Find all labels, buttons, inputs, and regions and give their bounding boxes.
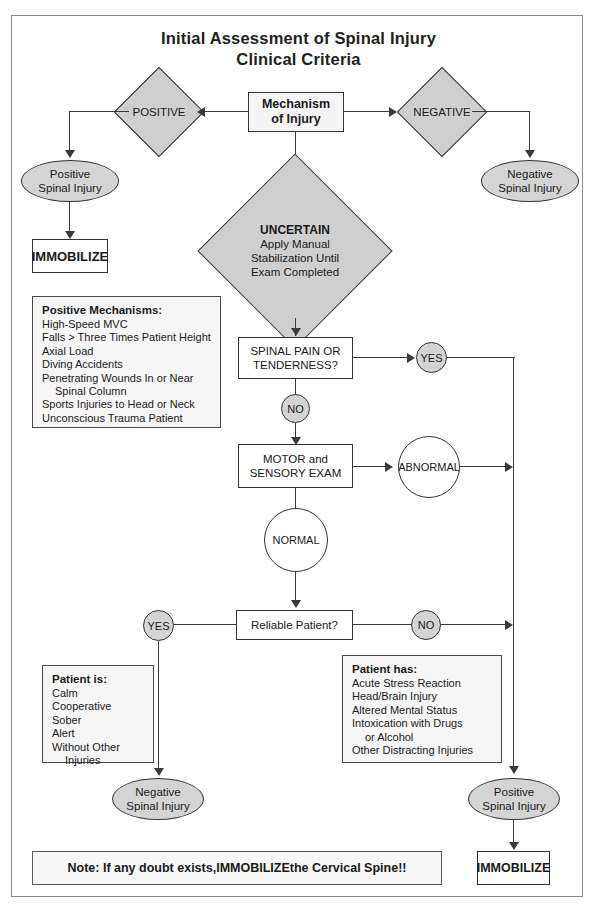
connector-mechanism-to-negative <box>344 111 389 112</box>
node-immobilize-bottom: IMMOBILIZE <box>477 851 550 885</box>
node-reliable-patient-label: Reliable Patient? <box>251 619 338 631</box>
patient-has-item: Altered Mental Status <box>352 704 492 717</box>
node-positive-diamond: POSITIVE <box>127 80 191 144</box>
node-negative-spinal-injury-bottom: Negative Spinal Injury <box>112 778 204 820</box>
node-positive-diamond-label: POSITIVE <box>127 80 191 144</box>
connector-negative-elbow-v <box>529 111 530 153</box>
connector-positive-elbow-v <box>69 111 70 153</box>
node-no-reliable: NO <box>411 610 441 640</box>
connector-negative-elbow-h <box>472 111 530 112</box>
node-negative-spinal-injury-top-label: Negative Spinal Injury <box>498 167 561 195</box>
node-motor-sensory-exam: MOTOR and SENSORY EXAM <box>238 444 353 488</box>
diagram-page: Initial Assessment of Spinal Injury Clin… <box>0 0 597 913</box>
node-negative-spinal-injury-top: Negative Spinal Injury <box>481 160 579 202</box>
node-immobilize-top: IMMOBILIZE <box>32 239 108 273</box>
node-uncertain-diamond: UNCERTAIN Apply Manual Stabilization Unt… <box>226 182 364 320</box>
arrowhead-negative-to-oval <box>525 150 535 158</box>
node-negative-spinal-injury-bottom-label: Negative Spinal Injury <box>126 785 189 813</box>
node-yes-pain: YES <box>416 342 447 373</box>
node-normal: NORMAL <box>264 508 328 572</box>
patient-is-item: Calm <box>52 687 144 700</box>
node-positive-spinal-injury-top: Positive Spinal Injury <box>21 160 119 202</box>
node-mechanism-of-injury: Mechanism of Injury <box>248 92 344 132</box>
patient-is-list: CalmCooperativeSoberAlertWithout OtherIn… <box>52 687 144 767</box>
uncertain-body: Apply Manual Stabilization Until Exam Co… <box>251 237 339 279</box>
positive-mechanisms-item: High-Speed MVC <box>42 318 211 331</box>
arrowhead-normal-down <box>291 600 301 608</box>
arrowhead-to-positive <box>197 107 205 117</box>
patient-is-item: Without Other <box>52 741 144 754</box>
positive-mechanisms-item: Axial Load <box>42 345 211 358</box>
node-reliable-patient: Reliable Patient? <box>236 610 353 640</box>
patient-has-item: Other Distracting Injuries <box>352 744 492 757</box>
connector-spinalpain-to-no <box>295 379 296 395</box>
note-emphasis: IMMOBILIZE <box>216 861 290 875</box>
note-suffix: the Cervical Spine!! <box>290 861 407 875</box>
node-spinal-pain: SPINAL PAIN OR TENDERNESS? <box>238 337 353 379</box>
node-abnormal: ABNORMAL <box>398 436 460 498</box>
connector-reliable-to-no <box>353 624 411 625</box>
arrowhead-uncertain-down <box>291 328 301 336</box>
connector-yespain-to-trunk <box>447 357 515 358</box>
patient-is-item: Injuries <box>52 754 144 767</box>
connector-pos-oval-to-immobilize <box>69 202 70 234</box>
note-bar: Note: If any doubt exists, IMMOBILIZE th… <box>32 851 442 885</box>
arrowhead-yesreliable-down <box>154 768 164 776</box>
positive-mechanisms-heading: Positive Mechanisms: <box>42 304 211 316</box>
node-negative-diamond: NEGATIVE <box>410 80 474 144</box>
patient-has-item: Head/Brain Injury <box>352 690 492 703</box>
positive-mechanisms-list: High-Speed MVCFalls > Three Times Patien… <box>42 318 211 425</box>
patient-is-item: Sober <box>52 714 144 727</box>
node-no-pain-label: NO <box>287 403 304 415</box>
arrowhead-to-abnormal <box>385 462 393 472</box>
node-negative-diamond-label: NEGATIVE <box>410 80 474 144</box>
node-abnormal-label: ABNORMAL <box>398 461 460 473</box>
uncertain-title: UNCERTAIN <box>260 223 330 237</box>
arrowhead-positive-to-oval <box>65 150 75 158</box>
node-yes-reliable: YES <box>143 610 174 641</box>
patient-has-item: Intoxication with Drugs <box>352 717 492 730</box>
positive-mechanisms-item: Sports Injuries to Head or Neck <box>42 398 211 411</box>
node-positive-spinal-injury-top-label: Positive Spinal Injury <box>38 167 101 195</box>
connector-positive-elbow-h <box>69 111 129 112</box>
positive-mechanisms-box: Positive Mechanisms: High-Speed MVCFalls… <box>32 296 221 428</box>
connector-spinalpain-to-yes <box>353 357 407 358</box>
connector-mechanism-to-positive <box>204 111 248 112</box>
connector-yesreliable-down <box>158 641 159 772</box>
connector-abnormal-to-trunk <box>460 466 506 467</box>
arrowhead-pos-oval-down <box>65 231 75 239</box>
arrowhead-to-yes-pain <box>407 353 415 363</box>
patient-has-list: Acute Stress ReactionHead/Brain InjuryAl… <box>352 677 492 757</box>
positive-mechanisms-item: Spinal Column <box>42 385 211 398</box>
arrowhead-noreliable-trunk <box>505 620 513 630</box>
connector-right-trunk <box>513 357 514 770</box>
node-motor-sensory-exam-label: MOTOR and SENSORY EXAM <box>250 452 342 480</box>
patient-has-item: or Alcohol <box>352 731 492 744</box>
patient-has-heading: Patient has: <box>352 663 492 675</box>
page-title: Initial Assessment of Spinal Injury Clin… <box>0 28 597 70</box>
node-no-pain: NO <box>281 394 310 423</box>
patient-has-box: Patient has: Acute Stress ReactionHead/B… <box>342 655 502 763</box>
node-spinal-pain-label: SPINAL PAIN OR TENDERNESS? <box>250 344 340 372</box>
page-title-line2: Clinical Criteria <box>0 49 597 70</box>
node-immobilize-bottom-label: IMMOBILIZE <box>477 861 551 875</box>
node-mechanism-of-injury-label: Mechanism of Injury <box>262 97 330 127</box>
arrowhead-right-trunk-down <box>509 766 519 774</box>
node-positive-spinal-injury-bottom: Positive Spinal Injury <box>468 778 560 820</box>
patient-is-box: Patient is: CalmCooperativeSoberAlertWit… <box>42 665 154 763</box>
arrowhead-posbottom-down <box>509 842 519 850</box>
connector-motor-to-abnormal <box>353 466 385 467</box>
node-immobilize-top-label: IMMOBILIZE <box>32 249 109 264</box>
patient-is-item: Cooperative <box>52 700 144 713</box>
patient-has-item: Acute Stress Reaction <box>352 677 492 690</box>
node-normal-label: NORMAL <box>272 534 319 546</box>
positive-mechanisms-item: Unconscious Trauma Patient <box>42 412 211 425</box>
patient-is-heading: Patient is: <box>52 673 144 685</box>
node-yes-reliable-label: YES <box>147 620 169 632</box>
connector-motor-to-normal <box>295 488 296 510</box>
page-title-line1: Initial Assessment of Spinal Injury <box>0 28 597 49</box>
arrowhead-abnormal-trunk <box>505 462 513 472</box>
positive-mechanisms-item: Diving Accidents <box>42 358 211 371</box>
node-uncertain-diamond-label: UNCERTAIN Apply Manual Stabilization Unt… <box>226 182 364 320</box>
positive-mechanisms-item: Penetrating Wounds In or Near <box>42 372 211 385</box>
